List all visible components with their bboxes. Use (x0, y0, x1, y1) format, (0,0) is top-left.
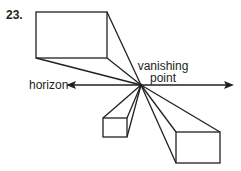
box-small (103, 118, 127, 137)
vanishing-label: vanishing point (135, 60, 191, 84)
vanishing-label-line2: point (135, 72, 191, 84)
horizon-label: horizon (29, 79, 68, 91)
box-bottom-right (176, 132, 220, 163)
box-large (36, 12, 107, 58)
